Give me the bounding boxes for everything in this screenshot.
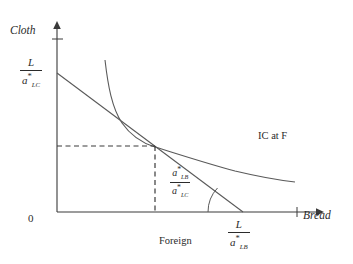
indifference-curve-at-f xyxy=(105,60,295,182)
x-axis xyxy=(57,207,324,217)
economics-diagram-foreign-ppf: Cloth Bread 0 Foreign IC at F L a*LC L a… xyxy=(0,0,353,264)
slope-numerator-subscript: LB xyxy=(181,173,188,180)
x-intercept-denominator-subscript: LB xyxy=(240,242,248,249)
figure-caption: Foreign xyxy=(159,235,192,246)
slope-numerator: a*LB xyxy=(170,166,190,181)
x-intercept-fraction: L a*LB xyxy=(228,219,250,250)
slope-label: a*LB a*LC xyxy=(170,166,190,199)
origin-label: 0 xyxy=(28,213,34,225)
x-axis-title: Bread xyxy=(303,209,331,221)
y-axis xyxy=(52,21,63,212)
plot-canvas xyxy=(0,0,353,264)
y-intercept-label: L a*LC xyxy=(20,57,42,88)
y-intercept-fraction: L a*LC xyxy=(20,57,42,88)
indifference-curve-annotation: IC at F xyxy=(258,130,287,141)
slope-denominator-subscript: LC xyxy=(181,191,189,198)
slope-denominator: a*LC xyxy=(170,184,190,199)
y-intercept-denominator: a*LC xyxy=(20,72,42,88)
y-axis-arrowhead xyxy=(53,21,61,29)
slope-fraction: a*LB a*LC xyxy=(170,166,190,199)
x-intercept-numerator: L xyxy=(228,219,250,231)
y-axis-title: Cloth xyxy=(10,24,36,36)
y-intercept-denominator-subscript: LC xyxy=(32,80,40,87)
y-intercept-numerator: L xyxy=(20,57,42,69)
tangency-guide-lines xyxy=(57,146,155,212)
x-intercept-denominator: a*LB xyxy=(228,234,250,250)
x-intercept-label: L a*LB xyxy=(228,219,250,250)
